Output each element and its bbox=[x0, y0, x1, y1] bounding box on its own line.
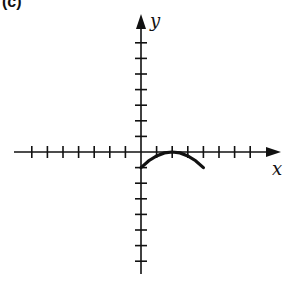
panel-label: (c) bbox=[2, 0, 22, 10]
x-axis-arrow-icon bbox=[266, 147, 281, 157]
y-axis-arrow-icon bbox=[136, 14, 146, 29]
axes bbox=[14, 22, 272, 274]
y-axis-label: y bbox=[149, 10, 161, 31]
x-axis-label: x bbox=[272, 158, 282, 179]
coordinate-plane: (c) x y bbox=[0, 0, 307, 282]
